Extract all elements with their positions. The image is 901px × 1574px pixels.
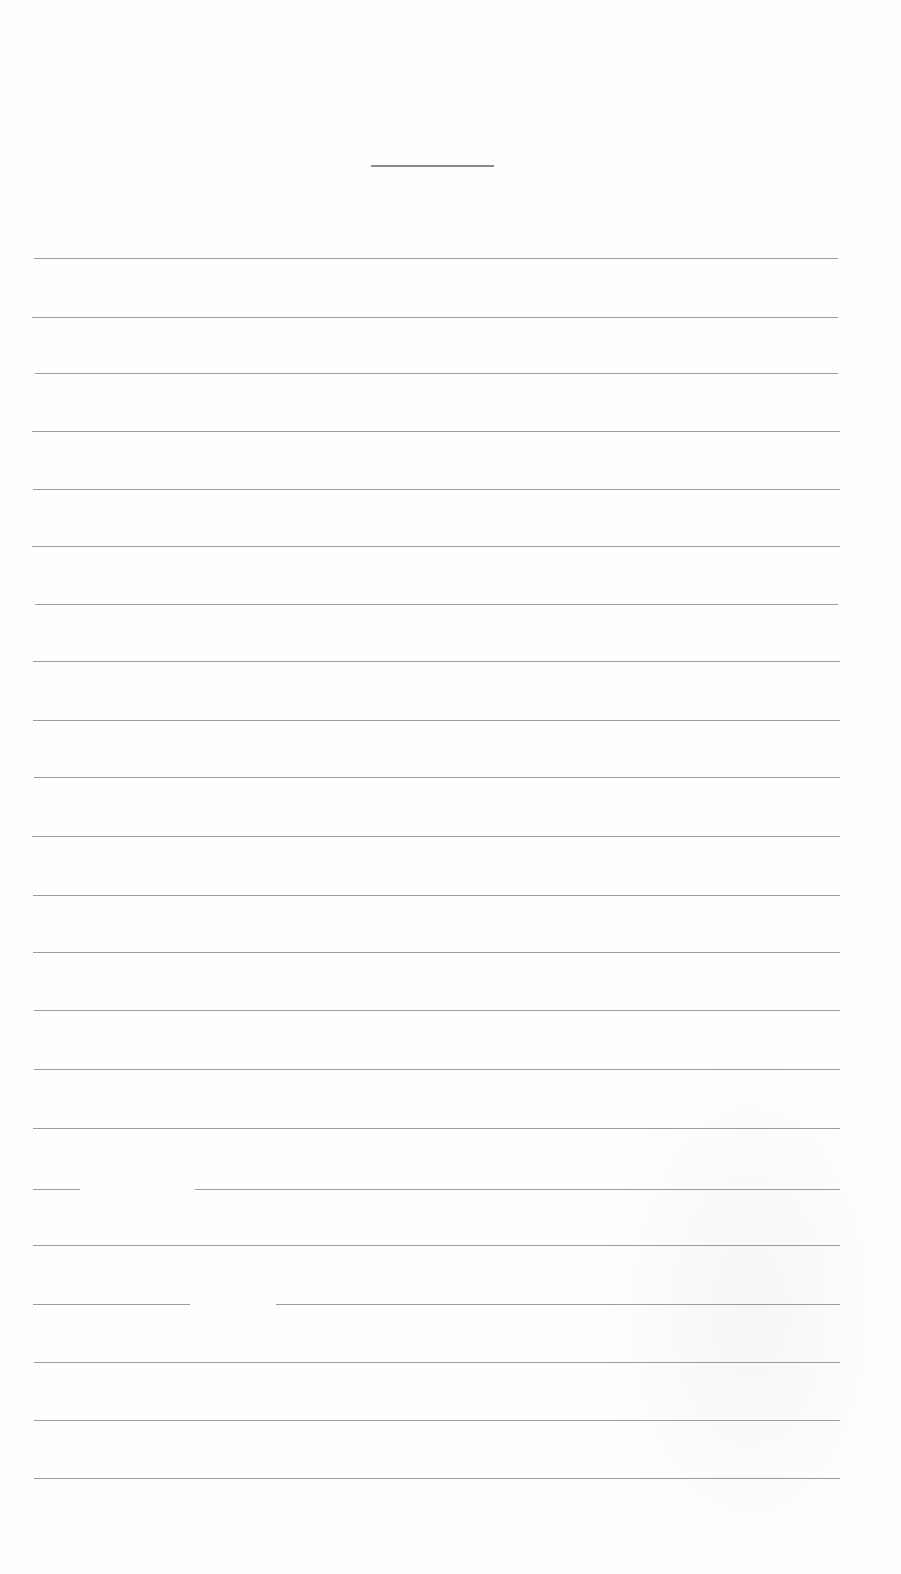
ruled-line xyxy=(33,952,840,953)
ruled-line xyxy=(32,836,840,837)
ruled-line xyxy=(34,1069,840,1070)
ruled-line xyxy=(33,1128,840,1129)
ruled-line xyxy=(33,720,840,721)
ruled-line xyxy=(34,1010,840,1011)
lined-paper-page xyxy=(0,0,901,1574)
ruled-line xyxy=(35,373,838,374)
ruled-line xyxy=(34,777,840,778)
ruled-line xyxy=(195,1189,840,1190)
ruled-line xyxy=(32,546,840,547)
ruled-line xyxy=(34,1420,840,1421)
ruled-line xyxy=(33,661,840,662)
ruled-line xyxy=(32,317,838,318)
ruled-line xyxy=(33,489,840,490)
ruled-line xyxy=(32,431,840,432)
ruled-line xyxy=(33,1304,190,1305)
ruled-line xyxy=(33,895,840,896)
title-line xyxy=(371,165,494,167)
ruled-line xyxy=(276,1304,840,1305)
ruled-line xyxy=(34,1362,840,1363)
ruled-line xyxy=(34,1478,840,1479)
ruled-line xyxy=(35,604,838,605)
ruled-line xyxy=(33,1245,840,1246)
ruled-line xyxy=(33,1189,80,1190)
ruled-line xyxy=(34,258,838,259)
